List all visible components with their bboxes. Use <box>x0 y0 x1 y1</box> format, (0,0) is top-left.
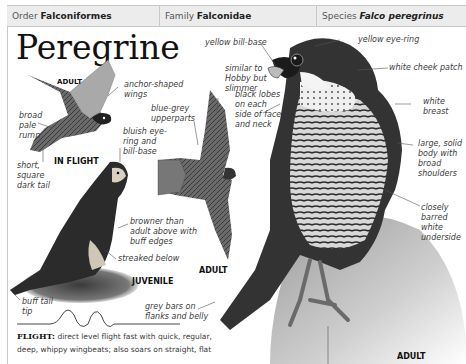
label-line: blue-grey <box>151 104 195 114</box>
label-line: Hobby but <box>225 74 267 84</box>
label-line: breast <box>423 107 449 117</box>
label-large-body: large, solidbody withbroadshoulders <box>418 139 462 179</box>
flight-heading: FLIGHT: <box>17 331 55 341</box>
label-line: on each <box>235 100 281 110</box>
label-line: anchor-shaped <box>124 80 183 90</box>
label-buff-tail: buff tailtip <box>22 297 53 317</box>
label-black-lobes: black lobeson eachside of faceand neck <box>235 90 281 130</box>
label-line: body with <box>418 149 462 159</box>
label-line: square <box>17 171 50 181</box>
label-line: closely <box>421 203 461 213</box>
label-line: wings <box>124 90 183 100</box>
field-guide-page: Order Falconiformes Family Falconidae Sp… <box>0 0 466 364</box>
label-line: large, solid <box>418 139 462 149</box>
label-closely-barred: closelybarredwhiteunderside <box>421 203 461 243</box>
label-line: broad <box>19 111 42 121</box>
label-yellow-bill: yellow bill-base <box>205 38 267 48</box>
label-bluish-eye: bluish eye-ring andbill-base <box>123 127 167 157</box>
label-line: pale <box>19 121 42 131</box>
label-line: side of face <box>235 110 281 120</box>
label-short-tail: short,squaredark tail <box>17 161 50 191</box>
label-yellow-eye: yellow eye-ring <box>358 35 419 45</box>
label-line: yellow bill-base <box>205 38 267 48</box>
flight-description: FLIGHT: direct level flight fast with qu… <box>17 330 242 356</box>
label-line: underside <box>421 233 461 243</box>
label-line: broad <box>418 159 462 169</box>
bird-illustrations <box>0 0 466 364</box>
label-streaked: streaked below <box>118 254 179 264</box>
label-line: bluish eye- <box>123 127 167 137</box>
label-line: streaked below <box>118 254 179 264</box>
label-line: white <box>423 97 449 107</box>
label-line: upperparts <box>151 114 195 124</box>
label-broad-rump: broadpalerump <box>19 111 42 141</box>
label-line: yellow eye-ring <box>358 35 419 45</box>
label-line: white <box>421 223 461 233</box>
label-line: tip <box>22 307 53 317</box>
label-browner: browner thanadult above withbuff edges <box>130 217 197 247</box>
label-line: grey bars on <box>145 302 208 312</box>
label-line: and neck <box>235 120 281 130</box>
label-grey-bars: grey bars onflanks and belly <box>145 302 208 322</box>
label-line: ring and <box>123 137 167 147</box>
label-line: short, <box>17 161 50 171</box>
label-anchor-wings: anchor-shapedwings <box>124 80 183 100</box>
label-line: rump <box>19 131 42 141</box>
label-line: similar to <box>225 64 267 74</box>
label-line: barred <box>421 213 461 223</box>
label-line: adult above with <box>130 227 197 237</box>
label-line: buff edges <box>130 237 197 247</box>
caption-adult-perched: ADULT <box>397 352 426 361</box>
caption-in-flight: IN FLIGHT <box>54 157 99 166</box>
label-line: flanks and belly <box>145 312 208 322</box>
caption-adult-flight-mid: ADULT <box>199 266 228 275</box>
label-line: dark tail <box>17 181 50 191</box>
label-line: white cheek patch <box>389 63 463 73</box>
label-white-breast: whitebreast <box>423 97 449 117</box>
label-line: bill-base <box>123 147 167 157</box>
label-line: shoulders <box>418 169 462 179</box>
label-blue-grey: blue-greyupperparts <box>151 104 195 124</box>
label-white-cheek: white cheek patch <box>389 63 463 73</box>
caption-adult-flight-top: ADULT <box>57 78 82 86</box>
label-line: buff tail <box>22 297 53 307</box>
label-line: black lobes <box>235 90 281 100</box>
flight-text-line1: direct level flight fast with quick, reg… <box>57 332 211 341</box>
label-line: browner than <box>130 217 197 227</box>
flight-text-line2: deep, whippy wingbeats; also soars on st… <box>17 345 211 354</box>
caption-juvenile: JUVENILE <box>132 277 173 286</box>
